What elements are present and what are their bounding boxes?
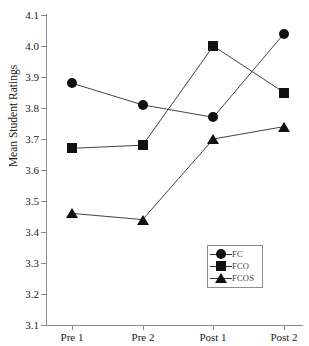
legend-label-fco: FCO	[232, 262, 249, 271]
legend-item-fcos[interactable]: FCOS	[210, 273, 259, 284]
legend-label-fcos: FCOS	[232, 274, 254, 283]
series-lines	[0, 0, 309, 346]
series-line-fcos	[72, 127, 284, 220]
legend-square-icon	[210, 261, 232, 272]
legend-triangle-icon	[210, 273, 232, 284]
legend-circle-icon	[210, 249, 232, 260]
legend-item-fco[interactable]: FCO	[210, 261, 259, 272]
series-line-fc	[72, 34, 284, 118]
legend-item-fc[interactable]: FC	[210, 249, 259, 260]
legend-label-fc: FC	[232, 250, 243, 259]
legend[interactable]: FC FCO FCOS	[207, 245, 263, 288]
series-line-fco	[72, 46, 284, 148]
chart-figure: Mean Student Ratings 4.14.03.93.83.73.63…	[0, 0, 309, 346]
